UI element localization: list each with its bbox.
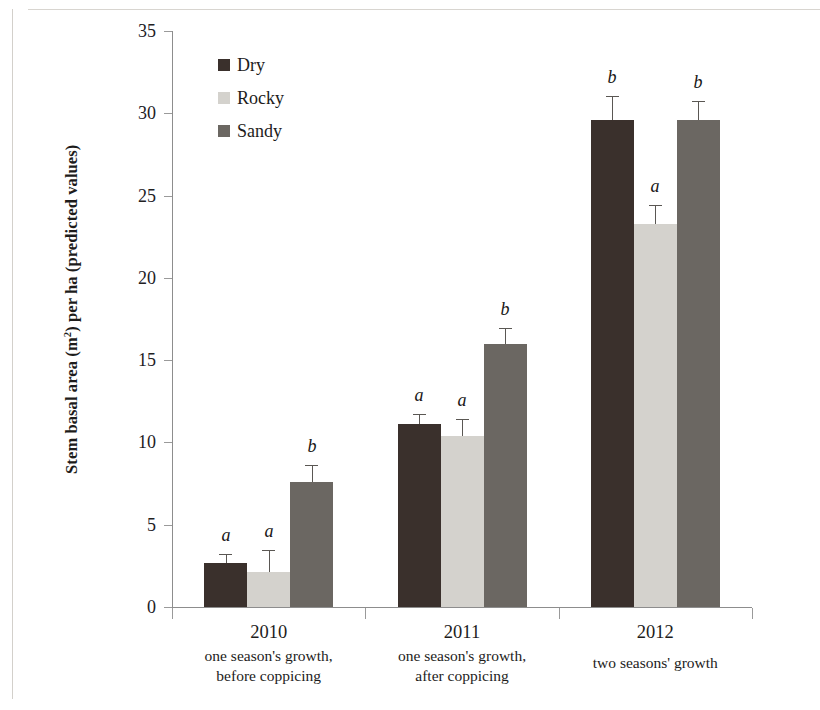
error-bar-rocky-2010: [269, 550, 270, 571]
bar-rocky-2010: [247, 572, 290, 607]
y-axis-tick: [164, 278, 172, 279]
error-bar-cap-rocky-2011: [456, 419, 469, 420]
error-bar-dry-2011: [419, 414, 420, 425]
y-axis-tick-label: 30: [108, 104, 156, 122]
y-axis-title: Stem basal area (m2) per ha (predicted v…: [62, 49, 83, 569]
bar-sandy-2012: [677, 120, 720, 607]
significance-letter-dry-2010: a: [206, 526, 246, 544]
y-axis-tick-label: 25: [108, 187, 156, 205]
x-axis-separator-tick: [559, 608, 560, 619]
y-axis-tick: [164, 31, 172, 32]
bar-dry-2010: [204, 563, 247, 607]
legend-label-sandy: Sandy: [237, 122, 282, 140]
x-axis-sublabel-line1-2010: one season's growth,: [159, 646, 379, 666]
bar-rocky-2012: [634, 224, 677, 607]
y-axis-tick: [164, 525, 172, 526]
y-axis-title-part1: Stem basal area (m: [62, 337, 81, 474]
bar-chart-figure: Stem basal area (m2) per ha (predicted v…: [0, 0, 820, 710]
bar-dry-2012: [591, 120, 634, 607]
y-axis-tick-label: 35: [108, 22, 156, 40]
x-axis-end-tick: [172, 608, 173, 619]
y-axis-tick-label: 15: [108, 351, 156, 369]
legend-swatch-sandy-icon: [218, 125, 230, 137]
y-axis-tick: [164, 607, 172, 608]
error-bar-cap-dry-2012: [606, 96, 619, 97]
legend-item-sandy: Sandy: [218, 114, 368, 147]
error-bar-rocky-2012: [655, 205, 656, 223]
y-axis-tick: [164, 113, 172, 114]
error-bar-cap-sandy-2011: [499, 328, 512, 329]
bar-dry-2011: [398, 424, 441, 607]
x-axis-end-tick: [752, 608, 753, 619]
x-axis-group-2010: 2010one season's growth,before coppicing: [159, 622, 379, 685]
y-axis-tick-label: 5: [108, 516, 156, 534]
error-bar-cap-rocky-2010: [262, 550, 275, 551]
x-axis-sublabel-line2-2011: after coppicing: [352, 666, 572, 686]
legend-label-rocky: Rocky: [237, 89, 284, 107]
error-bar-cap-dry-2011: [413, 414, 426, 415]
significance-letter-rocky-2012: a: [635, 177, 675, 195]
error-bar-rocky-2011: [462, 419, 463, 436]
significance-letter-sandy-2010: b: [292, 437, 332, 455]
x-axis-sublabel-line1-2012: two seasons' growth: [545, 653, 765, 673]
chart-legend: DryRockySandy: [218, 48, 368, 147]
x-axis-separator-tick: [365, 608, 366, 619]
significance-letter-dry-2012: b: [592, 68, 632, 86]
bar-sandy-2011: [484, 344, 527, 607]
x-axis-year-label-2010: 2010: [159, 622, 379, 644]
x-axis-line: [172, 607, 752, 608]
error-bar-sandy-2010: [312, 465, 313, 482]
error-bar-cap-sandy-2010: [305, 465, 318, 466]
legend-item-rocky: Rocky: [218, 81, 368, 114]
x-axis-sublabel-line2-2010: before coppicing: [159, 666, 379, 686]
significance-letter-sandy-2011: b: [485, 300, 525, 318]
y-axis-tick: [164, 360, 172, 361]
y-axis-tick-label: 20: [108, 269, 156, 287]
legend-swatch-rocky-icon: [218, 92, 230, 104]
legend-item-dry: Dry: [218, 48, 368, 81]
y-axis-title-superscript: 2: [62, 332, 73, 337]
x-axis-group-2012: 2012two seasons' growth: [545, 622, 765, 673]
error-bar-dry-2012: [612, 96, 613, 120]
error-bar-sandy-2011: [505, 328, 506, 344]
significance-letter-rocky-2010: a: [249, 522, 289, 540]
error-bar-cap-dry-2010: [219, 554, 232, 555]
x-axis-year-label-2012: 2012: [545, 622, 765, 644]
significance-letter-sandy-2012: b: [678, 73, 718, 91]
error-bar-sandy-2012: [698, 101, 699, 120]
x-axis-group-2011: 2011one season's growth,after coppicing: [352, 622, 572, 685]
legend-label-dry: Dry: [237, 56, 265, 74]
bar-sandy-2010: [290, 482, 333, 607]
y-axis-tick-label: 0: [108, 598, 156, 616]
error-bar-cap-sandy-2012: [692, 101, 705, 102]
y-axis-title-part2: ) per ha (predicted values): [62, 145, 81, 332]
x-axis-sublabel-line1-2011: one season's growth,: [352, 646, 572, 666]
bar-rocky-2011: [441, 436, 484, 607]
error-bar-cap-rocky-2012: [649, 205, 662, 206]
significance-letter-dry-2011: a: [399, 386, 439, 404]
y-axis-tick: [164, 196, 172, 197]
error-bar-dry-2010: [226, 554, 227, 563]
y-axis-tick-label: 10: [108, 433, 156, 451]
y-axis-tick: [164, 442, 172, 443]
x-axis-year-label-2011: 2011: [352, 622, 572, 644]
significance-letter-rocky-2011: a: [442, 391, 482, 409]
legend-swatch-dry-icon: [218, 59, 230, 71]
